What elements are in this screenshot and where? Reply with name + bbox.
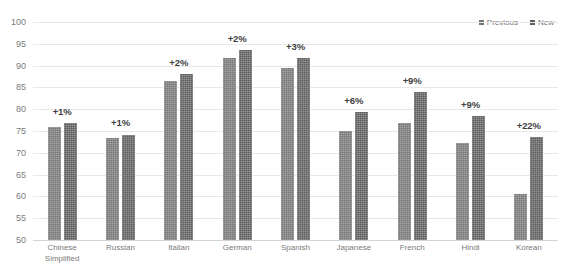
delta-label: +3% [286, 41, 305, 52]
bar-groups: +1%+1%+2%+2%+3%+6%+9%+9%+22% [33, 22, 558, 240]
bar-new[interactable] [297, 58, 310, 240]
delta-label: +22% [517, 120, 541, 131]
y-axis-tick-label: 80 [16, 104, 26, 114]
bar-previous[interactable] [398, 123, 411, 240]
y-axis-tick-label: 90 [16, 61, 26, 71]
bar-new[interactable] [180, 74, 193, 240]
bar-previous[interactable] [339, 131, 352, 240]
delta-label: +1% [111, 117, 130, 128]
bar-new[interactable] [64, 123, 77, 240]
x-axis-tick-label: French [380, 243, 444, 254]
y-axis-tick-label: 85 [16, 82, 26, 92]
bar-previous[interactable] [514, 194, 527, 240]
bar-previous[interactable] [281, 68, 294, 240]
delta-label: +1% [53, 106, 72, 117]
y-axis: 10095908580757065605550 [0, 22, 31, 240]
x-axis-tick-label: Korean [497, 243, 561, 254]
x-axis-tick-label: German [205, 243, 269, 254]
bar-new[interactable] [355, 112, 368, 240]
x-axis-tick-label: Italian [147, 243, 211, 254]
x-axis-tick-label: Spanish [264, 243, 328, 254]
bar-group [441, 22, 499, 240]
bar-group [266, 22, 324, 240]
bar-group [91, 22, 149, 240]
x-axis-tick-label: Hindi [439, 243, 503, 254]
y-axis-tick-label: 65 [16, 170, 26, 180]
y-axis-tick-label: 95 [16, 39, 26, 49]
delta-label: +2% [228, 33, 247, 44]
delta-label: +9% [461, 99, 480, 110]
bar-group [150, 22, 208, 240]
bar-chart: Previous New 10095908580757065605550 +1%… [0, 0, 562, 274]
x-axis-tick-label: Russian [89, 243, 153, 254]
y-axis-tick-label: 70 [16, 148, 26, 158]
x-axis: ChineseSimplifiedRussianItalianGermanSpa… [33, 243, 558, 274]
bar-new[interactable] [530, 137, 543, 240]
x-axis-tick-label: ChineseSimplified [30, 243, 94, 264]
gridline [33, 240, 558, 241]
y-axis-tick-label: 50 [16, 235, 26, 245]
bar-previous[interactable] [456, 143, 469, 240]
delta-label: +2% [169, 57, 188, 68]
y-axis-tick-label: 55 [16, 213, 26, 223]
bar-group [33, 22, 91, 240]
y-axis-tick-label: 100 [11, 17, 26, 27]
bar-group [383, 22, 441, 240]
y-axis-tick-label: 60 [16, 191, 26, 201]
bar-previous[interactable] [223, 58, 236, 240]
bar-new[interactable] [414, 92, 427, 240]
bar-previous[interactable] [164, 81, 177, 240]
delta-label: +9% [403, 75, 422, 86]
bar-previous[interactable] [106, 138, 119, 240]
bar-new[interactable] [472, 116, 485, 240]
bar-new[interactable] [122, 135, 135, 241]
bar-group [325, 22, 383, 240]
x-axis-tick-label: Japanese [322, 243, 386, 254]
y-axis-tick-label: 75 [16, 126, 26, 136]
chart-title [0, 0, 562, 6]
bar-previous[interactable] [48, 127, 61, 240]
delta-label: +6% [344, 95, 363, 106]
bar-new[interactable] [239, 50, 252, 240]
bar-group [208, 22, 266, 240]
